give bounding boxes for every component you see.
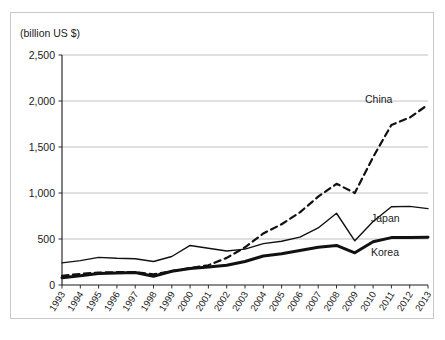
x-tick-labels-group: 1993199419951996199719981999200020012002…	[47, 285, 434, 313]
y-tick-label-2000: 2,000	[29, 95, 55, 107]
x-tick-label-1996: 1996	[102, 289, 123, 313]
x-tick-label-1994: 1994	[65, 289, 86, 313]
x-tick-label-2010: 2010	[358, 289, 379, 313]
x-tick-label-2000: 2000	[175, 289, 196, 313]
y-tick-label-1500: 1,500	[29, 141, 55, 153]
x-tick-label-1997: 1997	[120, 289, 141, 313]
series-labels-group: ChinaJapanKorea	[365, 93, 400, 258]
y-tick-label-500: 500	[37, 233, 55, 245]
series-label-japan: Japan	[371, 212, 400, 224]
y-tick-label-1000: 1,000	[29, 187, 55, 199]
x-tick-label-2003: 2003	[230, 289, 251, 313]
x-tick-label-1999: 1999	[156, 289, 177, 313]
x-tick-label-2005: 2005	[266, 289, 287, 313]
x-tick-label-1995: 1995	[83, 289, 104, 313]
y-tick-label-0: 0	[49, 279, 55, 291]
x-tick-label-2001: 2001	[193, 289, 214, 313]
x-tick-label-2004: 2004	[248, 289, 269, 313]
y-tick-labels-group: 05001,0001,5002,0002,500	[29, 49, 62, 291]
x-tick-label-2011: 2011	[376, 289, 396, 312]
y-tick-label-2500: 2,500	[29, 49, 55, 61]
x-tick-label-2012: 2012	[394, 289, 415, 313]
x-tick-label-2007: 2007	[303, 289, 324, 313]
series-label-korea: Korea	[371, 246, 399, 258]
series-label-china: China	[365, 93, 393, 105]
x-tick-label-1998: 1998	[138, 289, 159, 313]
x-tick-label-2006: 2006	[285, 289, 306, 313]
x-tick-label-2008: 2008	[321, 289, 342, 313]
x-tick-label-2013: 2013	[413, 289, 434, 313]
line-chart-plot: 05001,0001,5002,0002,500 199319941995199…	[0, 0, 445, 340]
x-tick-label-2002: 2002	[211, 289, 232, 313]
x-tick-label-1993: 1993	[47, 289, 68, 313]
x-tick-label-2009: 2009	[339, 289, 360, 313]
chart-figure: (billion US $) 05001,0001,5002,0002,500 …	[0, 0, 445, 340]
